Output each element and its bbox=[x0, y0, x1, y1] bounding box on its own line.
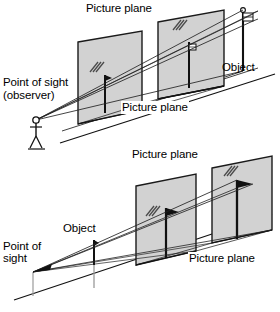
picture-plane-far-lower bbox=[212, 156, 272, 243]
picture-plane-far-upper bbox=[158, 10, 224, 99]
label-picture-plane-far-lower: Picture plane bbox=[131, 148, 199, 161]
label-point-of-sight-lower-line1: Point of bbox=[2, 240, 42, 253]
observer-figure-upper bbox=[28, 117, 45, 149]
label-object-upper: Object bbox=[221, 61, 256, 74]
label-point-of-sight-upper-line1: Point of sight bbox=[2, 76, 69, 89]
lower-diagram bbox=[14, 156, 272, 300]
label-object-lower: Object bbox=[62, 222, 97, 235]
label-picture-plane-near-lower: Picture plane bbox=[188, 252, 256, 265]
perspective-projection-figure: Picture plane Object Point of sight (obs… bbox=[0, 0, 280, 312]
label-point-of-sight-lower-line2: sight bbox=[2, 252, 28, 265]
label-point-of-sight-upper-line2: (observer) bbox=[2, 89, 55, 102]
label-picture-plane-far-upper: Picture plane bbox=[85, 2, 153, 15]
label-picture-plane-near-upper: Picture plane bbox=[121, 101, 189, 114]
